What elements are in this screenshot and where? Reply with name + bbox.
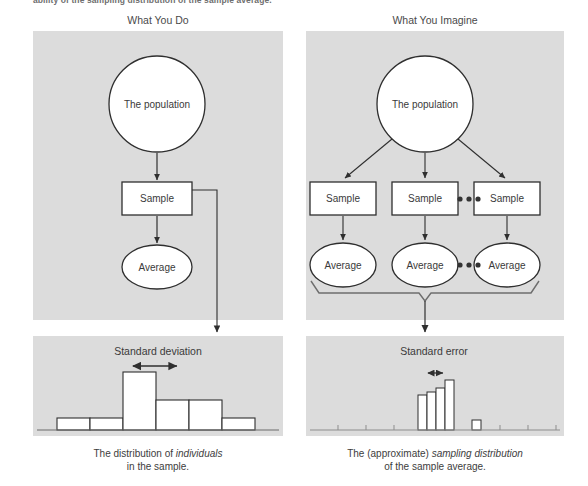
histogram-bar [222, 418, 255, 430]
histogram-title-left: Standard deviation [114, 345, 202, 357]
histogram-bar [57, 418, 90, 430]
histogram-bar [436, 388, 445, 430]
sample-row-ellipsis-icon [457, 196, 480, 201]
average-row-ellipsis-icon [457, 262, 480, 267]
histogram-bar [418, 395, 427, 430]
histogram-bar [156, 400, 189, 430]
figure-root: ability of the sampling distribution of … [0, 0, 588, 486]
histogram-bar [90, 418, 123, 430]
average-label-left: Average [138, 262, 176, 273]
caption-left-line1-pre: The distribution of [94, 448, 176, 459]
sample-label-2: Sample [408, 193, 442, 204]
caption-left: The distribution of individuals in the s… [33, 447, 283, 473]
histogram-bar [445, 380, 454, 430]
histogram-bar [472, 420, 481, 430]
caption-right-line1-pre: The (approximate) [347, 448, 431, 459]
histogram-bar [123, 372, 156, 430]
sample-label-left: Sample [140, 193, 174, 204]
histogram-bar [189, 400, 222, 430]
caption-right-line1-emphasis: sampling distribution [432, 448, 523, 459]
sample-label-3: Sample [490, 193, 524, 204]
diagram-canvas: The population Sample Average Standard d… [0, 0, 588, 486]
caption-right: The (approximate) sampling distribution … [306, 447, 564, 473]
average-label-3: Average [488, 260, 526, 271]
histogram-bar [427, 392, 436, 430]
average-label-2: Average [406, 260, 444, 271]
population-label-right: The population [392, 99, 458, 110]
caption-left-line2: in the sample. [127, 461, 189, 472]
caption-right-line2: of the sample average. [384, 461, 486, 472]
population-label-left: The population [124, 99, 190, 110]
histogram-title-right: Standard error [400, 345, 468, 357]
sample-label-1: Sample [326, 193, 360, 204]
average-label-1: Average [324, 260, 362, 271]
caption-left-line1-emphasis: individuals [176, 448, 223, 459]
